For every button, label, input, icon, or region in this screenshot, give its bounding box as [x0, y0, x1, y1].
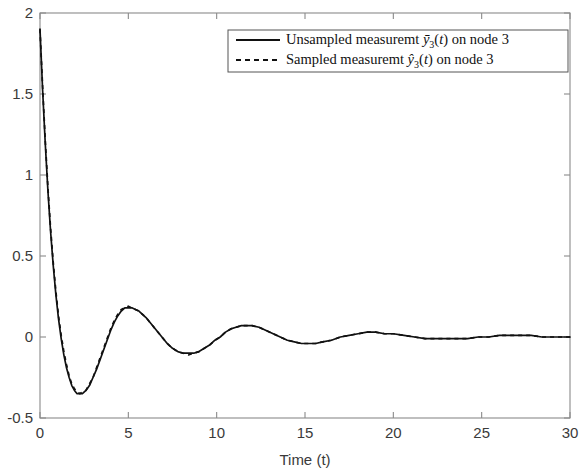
x-tick-label: 30: [562, 424, 579, 441]
y-tick-label: 1.5: [12, 85, 33, 102]
chart-figure: -0.500.511.52051015202530Time (t)Unsampl…: [0, 0, 586, 471]
x-tick-label: 10: [208, 424, 225, 441]
damped-oscillation-line-chart: -0.500.511.52051015202530Time (t)Unsampl…: [0, 0, 586, 471]
y-tick-label: 0: [25, 328, 33, 345]
x-tick-label: 20: [385, 424, 402, 441]
y-tick-label: -0.5: [7, 409, 33, 426]
x-axis-title: Time (t): [279, 451, 330, 468]
x-tick-label: 0: [36, 424, 44, 441]
legend: Unsampled measuremt ȳ3(t) on node 3Samp…: [228, 30, 568, 72]
x-tick-label: 5: [124, 424, 132, 441]
x-tick-label: 15: [297, 424, 314, 441]
y-tick-label: 0.5: [12, 247, 33, 264]
y-tick-label: 2: [25, 4, 33, 21]
x-tick-label: 25: [473, 424, 490, 441]
y-tick-label: 1: [25, 166, 33, 183]
